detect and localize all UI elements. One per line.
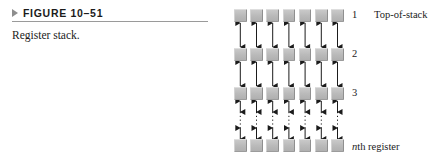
nth-register-rest: th register: [357, 141, 399, 152]
register-cell: [331, 139, 344, 152]
register-cell: [283, 9, 296, 22]
register-cell: [234, 139, 247, 152]
register-cell: [315, 48, 328, 61]
nth-register-label: nth register: [352, 141, 400, 152]
row-index-label-2: 2: [352, 48, 357, 59]
register-cell: [299, 9, 312, 22]
register-cell: [266, 87, 279, 100]
register-cell: [299, 139, 312, 152]
register-row-1: [234, 9, 344, 22]
register-cell: [266, 139, 279, 152]
register-cell: [234, 87, 247, 100]
figure-header: FIGURE 10–51: [12, 6, 208, 19]
register-cell: [299, 87, 312, 100]
register-cell: [331, 9, 344, 22]
register-cell: [234, 9, 247, 22]
register-cell: [283, 48, 296, 61]
register-cell: [250, 139, 263, 152]
register-cell: [266, 48, 279, 61]
register-cell: [315, 87, 328, 100]
register-cell: [283, 139, 296, 152]
register-cell: [266, 9, 279, 22]
register-cell: [331, 48, 344, 61]
register-cell: [250, 87, 263, 100]
register-cell: [331, 87, 344, 100]
row-index-label-3: 3: [352, 87, 357, 98]
register-row-3: [234, 87, 344, 100]
figure-caption-block: FIGURE 10–51 Register stack.: [12, 6, 208, 42]
register-cell: [250, 48, 263, 61]
register-row-n: [234, 139, 344, 152]
register-cell: [315, 139, 328, 152]
register-stack-diagram: 1 2 3 Top-of-stack nth register: [228, 0, 420, 163]
row-index-label-1: 1: [352, 9, 357, 20]
register-cell: [234, 48, 247, 61]
register-cell: [315, 9, 328, 22]
triangle-right-icon: [12, 9, 18, 17]
figure-number: FIGURE 10–51: [23, 7, 103, 19]
figure-caption-text: Register stack.: [12, 28, 208, 42]
figure-divider: [12, 21, 208, 22]
register-cell: [250, 9, 263, 22]
top-of-stack-label: Top-of-stack: [374, 9, 428, 20]
register-cell: [283, 87, 296, 100]
register-row-2: [234, 48, 344, 61]
register-cell: [299, 48, 312, 61]
